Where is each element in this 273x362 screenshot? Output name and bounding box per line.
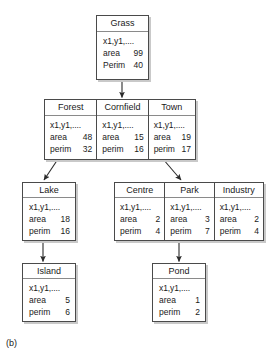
node-centre-title: Centre	[115, 183, 164, 198]
node-pond-area: area 1	[159, 294, 200, 306]
node-centre-perim-key: perim	[120, 225, 147, 237]
node-grass-body: x1,y1,.... area 99 Perim 40	[97, 32, 148, 74]
node-group-pond: Pond x1,y1,.... area 1 perim 2	[152, 263, 206, 322]
node-cornfield[interactable]: Cornfield x1,y1,.... area 15 perim 16	[96, 100, 147, 159]
node-lake-perim-key: perim	[29, 225, 56, 237]
node-island-area-value: 5	[65, 294, 70, 306]
node-grass[interactable]: Grass x1,y1,.... area 99 Perim 40	[97, 16, 148, 79]
node-centre-area-key: area	[120, 213, 143, 225]
node-park-perim-key: perim	[170, 225, 197, 237]
node-pond[interactable]: Pond x1,y1,.... area 1 perim 2	[153, 264, 205, 321]
node-island[interactable]: Island x1,y1,.... area 5 perim 6	[23, 264, 75, 321]
node-island-perim: perim 6	[29, 306, 70, 318]
node-centre-body: x1,y1,.... area 2 perim 4	[115, 198, 164, 240]
node-town[interactable]: Town x1,y1,.... area 19 perim 17	[148, 100, 195, 159]
node-park-area: area 3	[170, 213, 209, 225]
node-park-area-key: area	[170, 213, 193, 225]
node-lake-perim-value: 16	[61, 225, 70, 237]
node-town-title: Town	[149, 100, 195, 116]
node-cornfield-body: x1,y1,.... area 15 perim 16	[97, 116, 147, 158]
node-lake-coords: x1,y1,....	[29, 201, 70, 213]
node-group-root: Grass x1,y1,.... area 99 Perim 40	[96, 15, 149, 80]
node-pond-body: x1,y1,.... area 1 perim 2	[153, 279, 205, 321]
node-centre-area: area 2	[120, 213, 160, 225]
node-cornfield-perim-key: perim	[102, 143, 129, 155]
node-park-area-value: 3	[205, 213, 210, 225]
node-island-body: x1,y1,.... area 5 perim 6	[23, 279, 75, 321]
node-grass-title: Grass	[97, 16, 148, 32]
node-centre-perim-value: 4	[156, 225, 161, 237]
figure-label: (b)	[6, 337, 17, 349]
node-industry-area: area 2	[220, 213, 259, 225]
node-industry-coords: x1,y1,....	[220, 201, 259, 213]
node-lake-area-value: 18	[61, 213, 70, 225]
node-industry-title: Industry	[215, 183, 263, 198]
node-forest-area-value: 48	[83, 131, 92, 143]
node-lake[interactable]: Lake x1,y1,.... area 18 perim 16	[23, 183, 75, 240]
node-centre-coords: x1,y1,....	[120, 201, 160, 213]
node-lake-title: Lake	[23, 183, 75, 198]
node-lake-area-key: area	[29, 213, 52, 225]
node-industry-area-value: 2	[254, 213, 259, 225]
node-industry-perim: perim 4	[220, 225, 259, 237]
node-town-coords: x1,y1,....	[154, 119, 191, 131]
node-centre-perim: perim 4	[120, 225, 160, 237]
node-cornfield-area-key: area	[102, 131, 125, 143]
node-forest-title: Forest	[45, 100, 96, 116]
node-town-perim: perim 17	[154, 143, 191, 155]
node-park[interactable]: Park x1,y1,.... area 3 perim 7	[164, 183, 213, 240]
node-pond-coords: x1,y1,....	[159, 282, 200, 294]
node-cornfield-perim: perim 16	[102, 143, 143, 155]
node-forest-area-key: area	[50, 131, 73, 143]
node-grass-area: area 99	[103, 47, 143, 59]
node-group-town-children: Centre x1,y1,.... area 2 perim 4 Park x1…	[114, 182, 264, 241]
node-island-perim-key: perim	[29, 306, 56, 318]
node-town-body: x1,y1,.... area 19 perim 17	[149, 116, 195, 158]
node-grass-perim-value: 40	[134, 59, 143, 71]
node-island-area: area 5	[29, 294, 70, 306]
node-grass-perim: Perim 40	[103, 59, 143, 71]
node-group-level2: Forest x1,y1,.... area 48 perim 32 Cornf…	[44, 99, 196, 160]
node-industry[interactable]: Industry x1,y1,.... area 2 perim 4	[214, 183, 263, 240]
edge-forest-to-lake	[44, 159, 58, 180]
node-cornfield-perim-value: 16	[134, 143, 143, 155]
node-forest-coords: x1,y1,....	[50, 119, 92, 131]
node-pond-title: Pond	[153, 264, 205, 279]
diagram-canvas: Grass x1,y1,.... area 99 Perim 40 Forest…	[0, 0, 273, 362]
node-town-area: area 19	[154, 131, 191, 143]
node-forest-body: x1,y1,.... area 48 perim 32	[45, 116, 96, 158]
node-centre[interactable]: Centre x1,y1,.... area 2 perim 4	[115, 183, 164, 240]
node-island-area-key: area	[29, 294, 52, 306]
node-lake-area: area 18	[29, 213, 70, 225]
node-pond-area-key: area	[159, 294, 182, 306]
node-group-lake: Lake x1,y1,.... area 18 perim 16	[22, 182, 76, 241]
node-industry-perim-key: perim	[220, 225, 247, 237]
node-cornfield-coords: x1,y1,....	[102, 119, 143, 131]
node-industry-perim-value: 4	[254, 225, 259, 237]
node-cornfield-area: area 15	[102, 131, 143, 143]
node-town-perim-key: perim	[154, 143, 181, 155]
node-industry-area-key: area	[220, 213, 243, 225]
node-park-coords: x1,y1,....	[170, 201, 209, 213]
node-town-perim-value: 17	[182, 143, 191, 155]
node-cornfield-title: Cornfield	[97, 100, 147, 116]
node-industry-body: x1,y1,.... area 2 perim 4	[215, 198, 263, 240]
node-pond-perim: perim 2	[159, 306, 200, 318]
node-town-area-key: area	[154, 131, 177, 143]
node-pond-perim-key: perim	[159, 306, 186, 318]
node-grass-area-value: 99	[134, 47, 143, 59]
node-park-perim-value: 7	[205, 225, 210, 237]
node-island-title: Island	[23, 264, 75, 279]
node-lake-perim: perim 16	[29, 225, 70, 237]
node-forest[interactable]: Forest x1,y1,.... area 48 perim 32	[45, 100, 96, 159]
node-forest-perim-key: perim	[50, 143, 77, 155]
node-group-island: Island x1,y1,.... area 5 perim 6	[22, 263, 76, 322]
node-pond-area-value: 1	[195, 294, 200, 306]
node-island-perim-value: 6	[65, 306, 70, 318]
node-park-body: x1,y1,.... area 3 perim 7	[165, 198, 213, 240]
node-town-area-value: 19	[182, 131, 191, 143]
node-centre-area-value: 2	[156, 213, 161, 225]
node-forest-perim-value: 32	[83, 143, 92, 155]
node-grass-coords: x1,y1,....	[103, 35, 143, 47]
node-forest-perim: perim 32	[50, 143, 92, 155]
